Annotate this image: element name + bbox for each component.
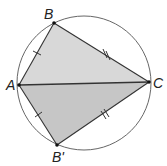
point-a: [17, 83, 21, 87]
label-b-prime: B': [52, 149, 65, 165]
kite-in-circle-diagram: A B C B': [0, 0, 167, 166]
triangle-ab-prime-c: [19, 82, 149, 145]
label-b: B: [44, 6, 53, 22]
point-c: [147, 80, 151, 84]
point-b-prime: [55, 143, 59, 147]
label-a: A: [5, 77, 15, 93]
label-c: C: [153, 75, 164, 91]
